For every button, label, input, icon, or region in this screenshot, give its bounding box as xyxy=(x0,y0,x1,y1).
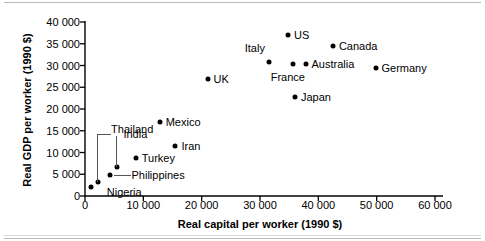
data-point-label: Iran xyxy=(181,140,200,152)
data-point-marker[interactable] xyxy=(330,43,335,48)
data-point-label: Nigeria xyxy=(107,186,142,198)
data-point-marker[interactable] xyxy=(133,156,138,161)
y-tick-label: 40 000 xyxy=(28,16,80,28)
data-point-label: Germany xyxy=(382,62,427,74)
y-axis-title: Real GDP per worker (1990 $) xyxy=(21,20,33,200)
data-point-label: Japan xyxy=(301,91,331,103)
leader-line-vertical xyxy=(116,136,117,167)
y-tick-label: 20 000 xyxy=(28,103,80,115)
y-tick-label: 10 000 xyxy=(28,147,80,159)
data-point-marker[interactable] xyxy=(205,76,210,81)
x-tick-label: 0 xyxy=(82,199,88,211)
data-point-label: France xyxy=(271,71,305,83)
leader-line-vertical xyxy=(97,134,98,182)
data-point-label: US xyxy=(294,29,309,41)
data-point-label: UK xyxy=(214,73,229,85)
x-tick-label: 60 000 xyxy=(418,199,452,211)
x-tick-label: 50 000 xyxy=(360,199,394,211)
leader-line-horizontal xyxy=(97,134,111,135)
data-point-marker[interactable] xyxy=(303,62,308,67)
leader-line-horizontal xyxy=(114,175,131,176)
y-tick-label: 5 000 xyxy=(28,168,80,180)
x-tick-label: 40 000 xyxy=(302,199,336,211)
x-tick-label: 20 000 xyxy=(185,199,219,211)
data-point-marker[interactable] xyxy=(173,143,178,148)
data-point-marker[interactable] xyxy=(286,33,291,38)
data-point-label: Australia xyxy=(312,58,355,70)
y-tick-label: 0 xyxy=(28,190,80,202)
x-axis-title: Real capital per worker (1990 $) xyxy=(85,218,435,230)
y-tick-label: 35 000 xyxy=(28,38,80,50)
y-tick-label: 25 000 xyxy=(28,81,80,93)
data-point-marker[interactable] xyxy=(88,185,93,190)
y-tick-label: 15 000 xyxy=(28,125,80,137)
data-point-marker[interactable] xyxy=(266,60,271,65)
data-point-marker[interactable] xyxy=(107,173,112,178)
x-tick-label: 30 000 xyxy=(243,199,277,211)
data-point-marker[interactable] xyxy=(157,120,162,125)
data-point-label: Mexico xyxy=(166,116,201,128)
data-point-marker[interactable] xyxy=(290,61,295,66)
data-point-label: Philippines xyxy=(132,169,185,181)
scatter-plot: 05 00010 00015 00020 00025 00030 00035 0… xyxy=(0,0,485,241)
data-point-label: Thailand xyxy=(111,123,153,135)
y-tick-label: 30 000 xyxy=(28,60,80,72)
data-point-marker[interactable] xyxy=(293,95,298,100)
data-point-label: Italy xyxy=(245,42,265,54)
data-point-label: Turkey xyxy=(142,152,175,164)
data-point-label: Canada xyxy=(339,40,378,52)
data-point-marker[interactable] xyxy=(373,65,378,70)
figure-container: 05 00010 00015 00020 00025 00030 00035 0… xyxy=(0,0,485,241)
x-tick-label: 10 000 xyxy=(127,199,161,211)
